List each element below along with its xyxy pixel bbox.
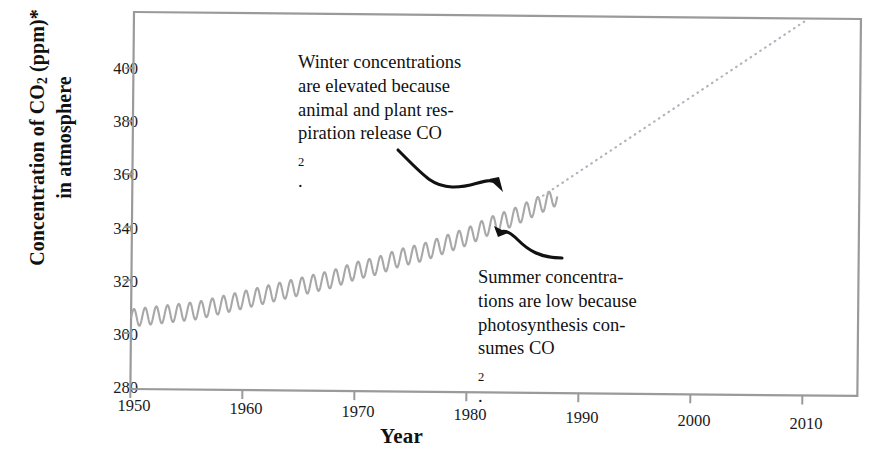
summer-annotation-line-2: tions are low because [478, 290, 637, 314]
winter-annotation-subscript: 2 [298, 155, 304, 169]
summer-annotation-line-4-tail: . [478, 385, 637, 409]
summer-annotation-text: Summer concentra- tions are low because … [478, 266, 637, 409]
summer-annotation-subscript: 2 [478, 370, 484, 384]
summer-annotation-line-4: sumes CO2. [478, 337, 637, 408]
winter-annotation-line-4: piration release CO2. [298, 122, 461, 193]
co2-projection-line [538, 18, 806, 202]
co2-concentration-chart: Concentration of CO2 (ppm)* in atmospher… [0, 0, 876, 460]
winter-annotation-text: Winter concentrations are elevated becau… [298, 51, 461, 194]
winter-annotation-line-3: animal and plant res- [298, 99, 461, 123]
winter-annotation-line-4-main: piration release CO [298, 122, 461, 146]
summer-annotation-line-4-main: sumes CO [478, 337, 637, 361]
summer-annotation-arrow [494, 226, 562, 258]
winter-annotation-line-1: Winter concentrations [298, 51, 461, 75]
winter-annotation-line-2: are elevated because [298, 75, 461, 99]
winter-annotation-line-4-tail: . [298, 170, 461, 194]
summer-annotation-line-1: Summer concentra- [478, 266, 637, 290]
summer-annotation-line-3: photosynthesis con- [478, 314, 637, 338]
